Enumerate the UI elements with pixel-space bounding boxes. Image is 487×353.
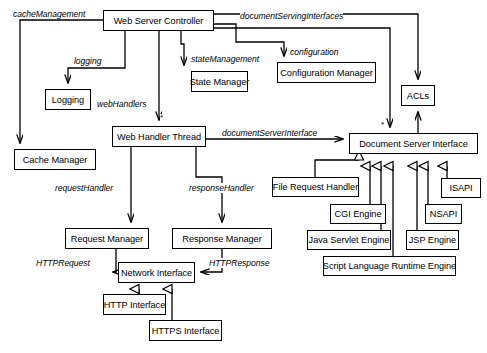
multiplicity-document-server-interface: * xyxy=(381,121,384,129)
node-https-interface[interactable]: HTTPS Interface xyxy=(149,320,222,341)
edge-label-document-serving-interfaces: documentServingInterfaces xyxy=(240,11,343,21)
node-java-servlet-engine[interactable]: Java Servlet Engine xyxy=(307,230,391,250)
edge-cache-management xyxy=(20,20,103,143)
edge-label-logging: logging xyxy=(74,56,101,66)
node-document-server-interface[interactable]: Document Server Interface xyxy=(349,133,478,154)
edge-label-http-request: HTTPRequest xyxy=(36,258,90,268)
node-nsapi[interactable]: NSAPI xyxy=(425,204,462,224)
uml-class-diagram: Web Server Controller Logging Cache Mana… xyxy=(0,0,487,353)
node-script-language-runtime-engine[interactable]: Script Language Runtime Engine xyxy=(323,256,456,276)
node-isapi[interactable]: ISAPI xyxy=(441,178,481,198)
node-jsp-engine[interactable]: JSP Engine xyxy=(406,230,459,250)
edge-label-request-handler: requestHandler xyxy=(55,183,113,193)
node-web-handler-thread[interactable]: Web Handler Thread xyxy=(112,126,206,147)
edge-layer xyxy=(0,0,487,353)
edge-http-request xyxy=(113,249,116,272)
node-cache-manager[interactable]: Cache Manager xyxy=(14,149,96,170)
edge-configuration xyxy=(214,24,284,56)
node-logging[interactable]: Logging xyxy=(45,89,91,110)
node-network-interface[interactable]: Network Interface xyxy=(118,262,195,283)
edge-label-cache-management: cacheManagement xyxy=(13,9,85,19)
edge-label-state-management: stateManagement xyxy=(191,54,259,64)
node-acls[interactable]: ACLs xyxy=(401,85,435,106)
node-file-request-handler[interactable]: File Request Handler xyxy=(272,177,359,197)
edge-label-http-response: HTTPResponse xyxy=(209,258,270,268)
multiplicity-web-handler-thread: * xyxy=(160,114,163,122)
node-request-manager[interactable]: Request Manager xyxy=(65,228,149,249)
edge-label-configuration: configuration xyxy=(290,47,339,57)
node-configuration-manager[interactable]: Configuration Manager xyxy=(277,62,376,83)
edge-state-management xyxy=(181,31,184,65)
gen-file-request-handler xyxy=(315,160,359,177)
node-state-manager[interactable]: State Manager xyxy=(191,71,248,92)
node-web-server-controller[interactable]: Web Server Controller xyxy=(103,10,214,31)
edge-label-web-handlers: webHandlers xyxy=(97,99,147,109)
edge-label-response-handler: responseHandler xyxy=(189,183,254,193)
node-response-manager[interactable]: Response Manager xyxy=(172,228,272,249)
edge-label-document-server-interface: documentServerInterface xyxy=(222,128,317,138)
node-http-interface[interactable]: HTTP Interface xyxy=(103,294,166,315)
node-cgi-engine[interactable]: CGI Engine xyxy=(330,204,386,224)
